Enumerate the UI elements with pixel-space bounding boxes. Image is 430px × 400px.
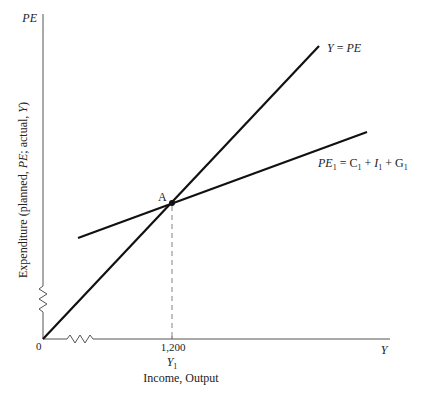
origin-label: 0 bbox=[36, 340, 42, 352]
point-a-marker bbox=[169, 200, 175, 206]
x-axis-line bbox=[43, 335, 390, 343]
45-degree-line-label: Y = PE bbox=[327, 41, 362, 55]
y-axis-symbol: PE bbox=[21, 11, 37, 25]
x-tick-value: 1,200 bbox=[161, 341, 186, 353]
45-degree-line bbox=[43, 46, 319, 339]
line-planned-expenditure: PE1 = C1 + I1 + G1 bbox=[78, 132, 408, 238]
keynesian-cross-diagram: PE Expenditure (planned, PE; actual, Y) … bbox=[0, 0, 430, 400]
y-axis-label: Expenditure (planned, PE; actual, Y) bbox=[16, 102, 30, 278]
y-axis: PE Expenditure (planned, PE; actual, Y) bbox=[16, 11, 47, 339]
equilibrium-point: A bbox=[158, 190, 175, 336]
x-axis: 0 Y 1,200 Y1 Income, Output bbox=[36, 335, 390, 385]
x-axis-symbol: Y bbox=[381, 343, 389, 357]
point-a-label: A bbox=[158, 190, 167, 204]
line-y-equals-pe: Y = PE bbox=[43, 41, 362, 339]
planned-expenditure-label: PE1 = C1 + I1 + G1 bbox=[317, 156, 408, 172]
x-axis-label: Income, Output bbox=[143, 371, 219, 385]
x-tick-symbol: Y1 bbox=[167, 355, 178, 371]
y-axis-line bbox=[39, 14, 47, 339]
